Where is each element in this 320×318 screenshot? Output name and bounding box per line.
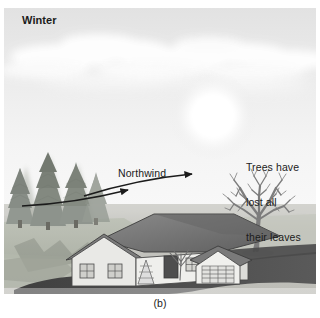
sun [169, 72, 257, 160]
season-label: Winter [22, 14, 57, 26]
front-door [164, 256, 178, 278]
northwind-label: Northwind [118, 167, 166, 179]
trees-annotation-line-2: lost all [246, 197, 301, 209]
figure-caption: (b) [0, 297, 320, 309]
winter-scene-figure: Winter Northwind Trees have lost all the… [0, 0, 320, 318]
trees-annotation-line-1: Trees have [246, 162, 301, 174]
trees-annotation-line-3: their leaves [246, 232, 301, 244]
garage-door [202, 266, 234, 283]
trees-annotation: Trees have lost all their leaves [246, 139, 301, 267]
